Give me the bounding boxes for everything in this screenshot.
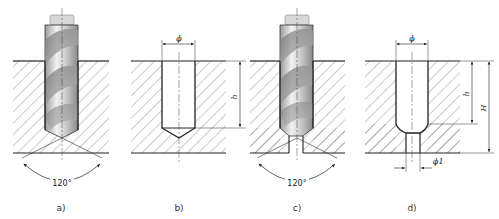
panel-d: ϕ ϕ1 h H d) bbox=[365, 34, 494, 213]
angle-label: 120° bbox=[52, 179, 71, 188]
panel-c: 120° c) bbox=[250, 8, 345, 213]
panel-a: 120° a) bbox=[13, 8, 109, 213]
total-depth-label: H bbox=[479, 103, 488, 112]
depth-label: h bbox=[462, 91, 471, 96]
caption-b: b) bbox=[174, 203, 183, 213]
caption-c: c) bbox=[293, 203, 301, 213]
panel-b: ϕ h b) bbox=[131, 34, 246, 213]
hatch-left bbox=[13, 61, 45, 153]
drill-bit-icon bbox=[280, 15, 313, 136]
drill-bit-icon bbox=[45, 15, 78, 138]
caption-d: d) bbox=[407, 203, 416, 213]
drilling-figure: 120° a) ϕ h b) bbox=[0, 0, 499, 219]
small-diameter-label: ϕ1 bbox=[433, 157, 444, 166]
blind-hole-outline bbox=[162, 61, 195, 138]
diameter-label: ϕ bbox=[176, 34, 182, 43]
caption-a: a) bbox=[56, 203, 65, 213]
diameter-label: ϕ bbox=[409, 34, 415, 43]
angle-label: 120° bbox=[287, 179, 306, 188]
depth-label: h bbox=[230, 94, 239, 99]
hatch-right bbox=[78, 61, 109, 153]
